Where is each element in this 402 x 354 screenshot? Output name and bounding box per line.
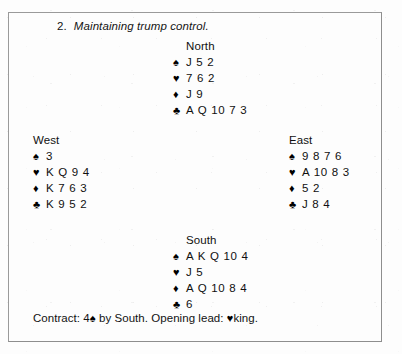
diamond-icon: ♦ [289, 180, 302, 196]
west-hearts-row: ♥ K Q 9 4 [33, 164, 90, 180]
east-hearts: A 10 8 3 [302, 164, 350, 180]
south-hearts: J 5 [186, 264, 203, 280]
east-spades: 9 8 7 6 [302, 148, 342, 164]
south-spades: A K Q 10 4 [186, 248, 249, 264]
east-diamonds: 5 2 [302, 180, 320, 196]
west-hearts: K Q 9 4 [46, 164, 90, 180]
club-icon: ♣ [173, 102, 186, 118]
seat-label-east: East [289, 132, 350, 148]
spade-icon: ♠ [289, 148, 302, 164]
club-icon: ♣ [173, 296, 186, 312]
diamond-icon: ♦ [173, 280, 186, 296]
bridge-hand-diagram: 2.Maintaining trump control. North ♠ J 5… [0, 0, 402, 354]
north-diamonds-row: ♦ J 9 [173, 86, 247, 102]
north-diamonds: J 9 [186, 86, 203, 102]
north-clubs: A Q 10 7 3 [186, 102, 247, 118]
seat-label-south: South [186, 232, 249, 248]
spade-icon: ♠ [173, 248, 186, 264]
south-clubs-row: ♣ 6 [173, 296, 249, 312]
north-hearts-row: ♥ 7 6 2 [173, 70, 247, 86]
east-diamonds-row: ♦ 5 2 [289, 180, 350, 196]
hand-west: West ♠ 3 ♥ K Q 9 4 ♦ K 7 6 3 ♣ K 9 5 2 [33, 132, 90, 212]
east-hearts-row: ♥ A 10 8 3 [289, 164, 350, 180]
problem-number: 2. [57, 20, 67, 32]
east-spades-row: ♠ 9 8 7 6 [289, 148, 350, 164]
hand-north: North ♠ J 5 2 ♥ 7 6 2 ♦ J 9 ♣ A Q 10 7 3 [173, 38, 247, 118]
south-spades-row: ♠ A K Q 10 4 [173, 248, 249, 264]
heart-icon: ♥ [33, 164, 46, 180]
opening-lead-label: Opening lead: [151, 312, 223, 324]
north-spades: J 5 2 [186, 54, 214, 70]
diamond-icon: ♦ [173, 86, 186, 102]
spade-icon: ♠ [90, 312, 96, 324]
contract-line: Contract: 4♠ by South. Opening lead: ♥ki… [33, 312, 258, 324]
problem-title: 2.Maintaining trump control. [57, 20, 209, 32]
spade-icon: ♠ [33, 148, 46, 164]
north-spades-row: ♠ J 5 2 [173, 54, 247, 70]
west-diamonds: K 7 6 3 [46, 180, 87, 196]
diamond-icon: ♦ [33, 180, 46, 196]
spade-icon: ♠ [173, 54, 186, 70]
hand-south: South ♠ A K Q 10 4 ♥ J 5 ♦ A Q 10 8 4 ♣ … [173, 232, 249, 312]
club-icon: ♣ [289, 196, 302, 212]
south-clubs: 6 [186, 296, 193, 312]
west-clubs-row: ♣ K 9 5 2 [33, 196, 90, 212]
problem-title-text: Maintaining trump control. [74, 20, 209, 32]
opening-lead-card: king. [233, 312, 258, 324]
south-diamonds: A Q 10 8 4 [186, 280, 247, 296]
east-clubs: J 8 4 [302, 196, 330, 212]
north-hearts: 7 6 2 [186, 70, 215, 86]
south-hearts-row: ♥ J 5 [173, 264, 249, 280]
north-clubs-row: ♣ A Q 10 7 3 [173, 102, 247, 118]
west-diamonds-row: ♦ K 7 6 3 [33, 180, 90, 196]
hand-east: East ♠ 9 8 7 6 ♥ A 10 8 3 ♦ 5 2 ♣ J 8 4 [289, 132, 350, 212]
heart-icon: ♥ [289, 164, 302, 180]
east-clubs-row: ♣ J 8 4 [289, 196, 350, 212]
club-icon: ♣ [33, 196, 46, 212]
contract-declarer: by South. [99, 312, 148, 324]
west-clubs: K 9 5 2 [46, 196, 87, 212]
west-spades-row: ♠ 3 [33, 148, 90, 164]
seat-label-west: West [33, 132, 90, 148]
seat-label-north: North [186, 38, 247, 54]
contract-label: Contract: [33, 312, 80, 324]
heart-icon: ♥ [173, 264, 186, 280]
heart-icon: ♥ [173, 70, 186, 86]
west-spades: 3 [46, 148, 53, 164]
south-diamonds-row: ♦ A Q 10 8 4 [173, 280, 249, 296]
